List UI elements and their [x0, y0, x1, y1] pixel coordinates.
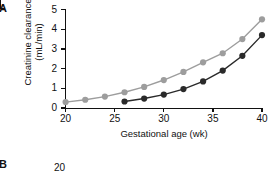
x-tick-label-35: 35: [203, 114, 223, 124]
y-tick-label-3: 3: [44, 44, 57, 54]
y-tick-label-1: 1: [44, 83, 57, 93]
x-tick-25: [114, 108, 115, 112]
y-tick-label-0: 0: [44, 103, 57, 113]
data-point: [259, 32, 265, 38]
data-point: [121, 89, 127, 95]
x-tick-30: [163, 108, 164, 112]
x-tick-label-30: 30: [154, 114, 174, 124]
x-tick-35: [212, 108, 213, 112]
data-point: [63, 99, 69, 105]
series-line-lower-dark: [125, 35, 262, 101]
data-point: [220, 50, 226, 56]
data-point: [220, 67, 226, 73]
data-point: [259, 16, 265, 22]
data-point: [200, 78, 206, 84]
y-tick-2: [61, 68, 65, 69]
x-tick-label-25: 25: [105, 114, 125, 124]
y-tick-label-5: 5: [44, 5, 57, 15]
data-point: [200, 59, 206, 65]
data-point: [239, 36, 245, 42]
data-point: [121, 98, 127, 104]
panel-b-ytick-20: 20: [45, 163, 65, 173]
data-point: [141, 95, 147, 101]
data-point: [161, 92, 167, 98]
y-tick-4: [61, 29, 65, 30]
y-tick-3: [61, 48, 65, 49]
data-point: [102, 93, 108, 99]
x-tick-20: [65, 108, 66, 112]
figure-panel-a: A Creatinine clearance (mL/min) Gestatio…: [0, 0, 273, 175]
panel-label-b: B: [0, 158, 7, 170]
y-tick-label-4: 4: [44, 24, 57, 34]
y-tick-5: [61, 9, 65, 10]
data-point: [82, 97, 88, 103]
data-point: [141, 84, 147, 90]
series-line-upper-light-gray: [66, 19, 262, 102]
data-point: [180, 86, 186, 92]
y-tick-1: [61, 88, 65, 89]
x-tick-label-40: 40: [252, 114, 272, 124]
data-point: [161, 77, 167, 83]
plot-area: [0, 0, 273, 175]
series-lower-dark: [121, 32, 265, 105]
y-tick-label-2: 2: [44, 64, 57, 74]
x-tick-40: [261, 108, 262, 112]
data-point: [239, 53, 245, 59]
data-point: [180, 69, 186, 75]
x-tick-label-20: 20: [56, 114, 76, 124]
